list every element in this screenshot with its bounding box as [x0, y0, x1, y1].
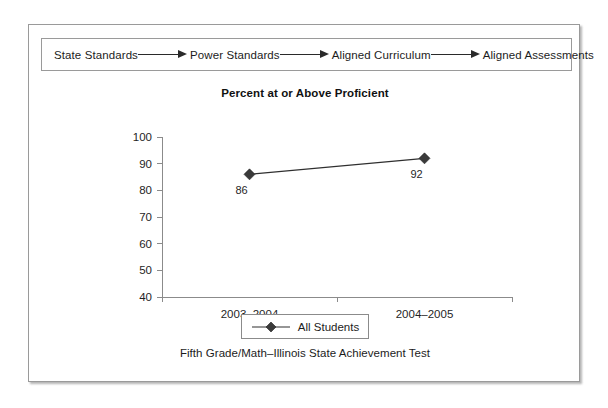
data-point-label: 92	[410, 168, 422, 180]
data-point-marker	[419, 153, 430, 164]
y-tick-label: 70	[139, 211, 152, 223]
figure-frame: State Standards Power Standards Aligned …	[28, 24, 580, 382]
diamond-marker-icon	[251, 321, 291, 333]
y-axis-ticks: 405060708090100	[133, 131, 162, 303]
data-point-label: 86	[235, 184, 247, 196]
chart-legend: All Students	[241, 314, 369, 339]
data-point-marker	[244, 169, 255, 180]
series-all-students: 8692	[235, 153, 430, 197]
legend-entry-label: All Students	[298, 321, 359, 333]
y-tick-label: 60	[139, 238, 152, 250]
x-axis-category-label: 2004–2005	[396, 308, 454, 320]
chart-area: Percent at or Above Proficient 405060708…	[29, 25, 579, 381]
y-tick-label: 50	[139, 264, 152, 276]
line-chart-plot: 405060708090100 8692 2003–20042004–2005	[69, 97, 539, 327]
y-tick-label: 40	[139, 291, 152, 303]
y-tick-label: 80	[139, 184, 152, 196]
y-tick-label: 90	[139, 158, 152, 170]
chart-caption: Fifth Grade/Math–Illinois State Achievem…	[29, 347, 581, 359]
y-tick-label: 100	[133, 131, 152, 143]
x-axis	[162, 297, 512, 302]
